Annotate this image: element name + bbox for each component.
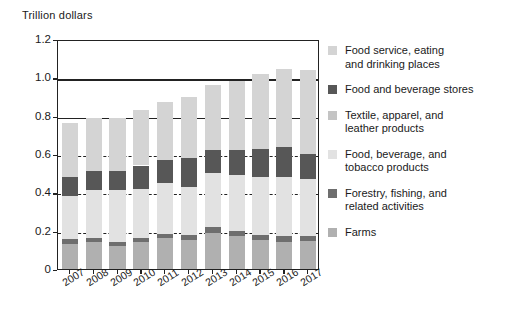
bar-segment [157, 102, 173, 160]
bar-segment [205, 233, 221, 269]
bar-segment [157, 160, 173, 183]
bar-segment [205, 85, 221, 150]
bar-segment [229, 236, 245, 269]
legend-swatch-food-beverage-stores [328, 85, 337, 94]
legend-item[interactable]: Food service, eatingand drinking places [328, 44, 504, 71]
y-tick-label: 1.2 [17, 33, 51, 45]
legend-item[interactable]: Farms [328, 226, 504, 240]
legend-item[interactable]: Textile, apparel, andleather products [328, 109, 504, 136]
legend-item-label: Food, beverage, andtobacco products [345, 148, 447, 175]
bar-segment [252, 177, 268, 235]
bar-group [205, 39, 221, 269]
bar-segment [205, 173, 221, 227]
plot-area [57, 40, 319, 270]
bar-segment [229, 231, 245, 237]
bar-group [157, 39, 173, 269]
bar-segment [133, 238, 149, 242]
bar-segment [133, 166, 149, 189]
chart-legend: Food service, eatingand drinking placesF… [328, 44, 504, 251]
bar-segment [109, 190, 125, 242]
bar-segment [181, 97, 197, 158]
bar-segment [133, 242, 149, 269]
bar-segment [252, 235, 268, 241]
bar-segment [62, 177, 78, 196]
y-tick-label: 0.6 [17, 148, 51, 160]
bar-segment [300, 241, 316, 269]
y-axis-title: Trillion dollars [22, 9, 93, 21]
bar-segment [86, 118, 102, 172]
legend-item-label: Forestry, fishing, andrelated activities [345, 187, 447, 214]
bar-segment [62, 196, 78, 239]
bar-segment [86, 242, 102, 269]
bar-segment [62, 244, 78, 269]
bar-segment [205, 150, 221, 173]
y-tick-mark [53, 232, 57, 233]
bar-segment [229, 175, 245, 231]
bar-segment [109, 118, 125, 172]
y-tick-mark [53, 155, 57, 156]
bar-segment [109, 242, 125, 246]
bars-container [58, 41, 318, 269]
bar-segment [157, 183, 173, 234]
legend-swatch-food-beverage-tobacco [328, 150, 337, 159]
bar-group [62, 39, 78, 269]
bar-group [252, 39, 268, 269]
bar-segment [86, 171, 102, 190]
bar-segment [181, 240, 197, 269]
bar-segment [109, 171, 125, 190]
legend-swatch-farms [328, 228, 337, 237]
bar-segment [62, 239, 78, 244]
bar-segment [157, 238, 173, 269]
bar-group [229, 39, 245, 269]
bar-segment [276, 147, 292, 177]
bar-group [300, 39, 316, 269]
bar-group [276, 39, 292, 269]
bar-segment [276, 69, 292, 148]
bar-segment [300, 70, 316, 154]
chart-figure: Trillion dollars 00.20.40.60.81.01.2 200… [0, 0, 505, 326]
legend-item-label: Food and beverage stores [345, 83, 473, 97]
y-tick-label: 0.2 [17, 225, 51, 237]
bar-segment [252, 149, 268, 177]
y-tick-label: 0.4 [17, 186, 51, 198]
legend-item[interactable]: Food, beverage, andtobacco products [328, 148, 504, 175]
bar-segment [86, 238, 102, 242]
bar-group [181, 39, 197, 269]
y-tick-mark [53, 270, 57, 271]
y-tick-label: 0.8 [17, 110, 51, 122]
bar-segment [133, 189, 149, 239]
y-tick-label: 1.0 [17, 71, 51, 83]
y-tick-mark [53, 78, 57, 79]
bar-segment [181, 235, 197, 240]
legend-item[interactable]: Forestry, fishing, andrelated activities [328, 187, 504, 214]
bar-segment [181, 158, 197, 187]
bar-segment [205, 227, 221, 233]
bar-segment [86, 190, 102, 238]
legend-item[interactable]: Food and beverage stores [328, 83, 504, 97]
legend-swatch-textile [328, 111, 337, 120]
bar-segment [109, 246, 125, 269]
y-tick-label: 0 [17, 263, 51, 275]
legend-swatch-forestry [328, 189, 337, 198]
bar-segment [300, 179, 316, 237]
bar-segment [157, 234, 173, 239]
bar-segment [62, 123, 78, 177]
y-tick-mark [53, 193, 57, 194]
bar-segment [229, 150, 245, 175]
bar-segment [252, 240, 268, 269]
bar-segment [300, 236, 316, 241]
bar-segment [276, 242, 292, 269]
bar-group [86, 39, 102, 269]
bar-group [133, 39, 149, 269]
legend-item-label: Farms [345, 226, 376, 240]
bar-segment [229, 81, 245, 150]
bar-segment [300, 154, 316, 179]
bar-segment [276, 177, 292, 236]
bar-group [109, 39, 125, 269]
bar-segment [181, 187, 197, 236]
bar-segment [276, 236, 292, 242]
legend-item-label: Food service, eatingand drinking places [345, 44, 444, 71]
bar-segment [133, 110, 149, 166]
legend-swatch-food-service [328, 46, 337, 55]
legend-item-label: Textile, apparel, andleather products [345, 109, 443, 136]
